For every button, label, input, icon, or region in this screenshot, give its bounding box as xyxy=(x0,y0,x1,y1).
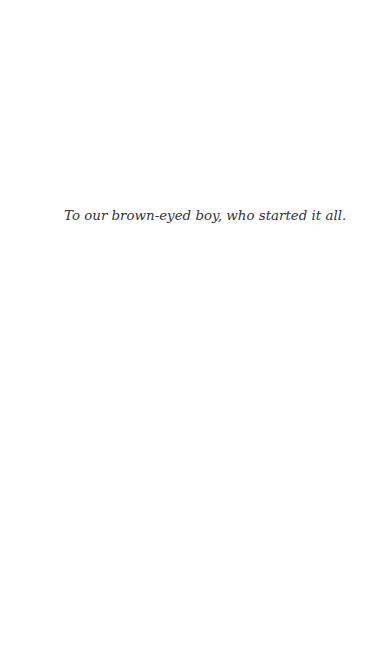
dedication-page: To our brown-eyed boy, who started it al… xyxy=(0,0,375,660)
dedication-text: To our brown-eyed boy, who started it al… xyxy=(64,206,304,226)
